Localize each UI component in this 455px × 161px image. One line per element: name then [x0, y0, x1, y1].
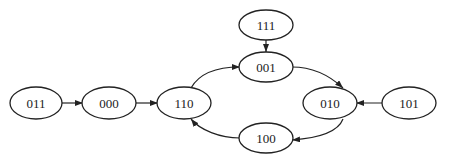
edge-010-100	[292, 119, 343, 140]
edge-100-110	[191, 119, 240, 138]
node-label: 111	[257, 18, 276, 33]
node-label: 110	[174, 96, 193, 111]
node-001: 001	[239, 52, 293, 82]
node-100: 100	[239, 123, 293, 153]
node-label: 001	[256, 60, 276, 75]
node-110: 110	[157, 87, 211, 119]
node-label: 011	[26, 96, 45, 111]
edge-110-001	[191, 67, 240, 88]
node-000: 000	[82, 87, 136, 119]
node-010: 010	[303, 87, 357, 119]
state-diagram: 011 000 110 111 001 010 101 100	[0, 0, 455, 161]
edge-001-010	[292, 67, 343, 88]
node-label: 101	[399, 96, 419, 111]
node-label: 100	[256, 131, 276, 146]
node-101: 101	[382, 87, 436, 119]
node-label: 010	[320, 96, 340, 111]
node-111: 111	[239, 10, 293, 40]
node-label: 000	[99, 96, 119, 111]
node-011: 011	[10, 87, 62, 119]
